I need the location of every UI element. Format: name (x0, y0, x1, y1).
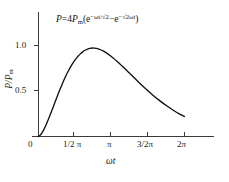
y-axis-title-denominator: P (4, 74, 14, 80)
figure-container: P=4Pm(e−ωt/√2−e−√2ωt) 1.0 0.5 0 1/2 π π … (0, 0, 229, 182)
x-axis-title: ωt (106, 157, 115, 167)
formula-annotation: P=4Pm(e−ωt/√2−e−√2ωt) (56, 13, 138, 25)
y-tick-label-1.0: 1.0 (15, 41, 26, 50)
y-tick-label-0.5: 0.5 (15, 86, 26, 95)
y-axis-title-numerator: P (4, 83, 14, 89)
x-tick-label-half-pi: 1/2 π (63, 140, 81, 149)
power-response-curve (39, 48, 185, 137)
y-axis-title: P/Pm (5, 63, 15, 95)
y-axis-title-subscript: m (7, 69, 14, 74)
plot-canvas (0, 0, 229, 182)
formula-close-paren: ) (135, 14, 138, 24)
y-tick-label-0: 0 (28, 140, 33, 149)
formula-term1-exponent: −ωt/√2 (90, 13, 109, 20)
x-tick-label-three-halves-pi: 3/2π (137, 140, 153, 149)
x-tick-label-pi: π (107, 140, 112, 149)
formula-term2-exponent: −√2ωt (118, 13, 135, 20)
y-axis-title-slash: / (4, 80, 14, 83)
x-tick-label-two-pi: 2π (177, 140, 186, 149)
